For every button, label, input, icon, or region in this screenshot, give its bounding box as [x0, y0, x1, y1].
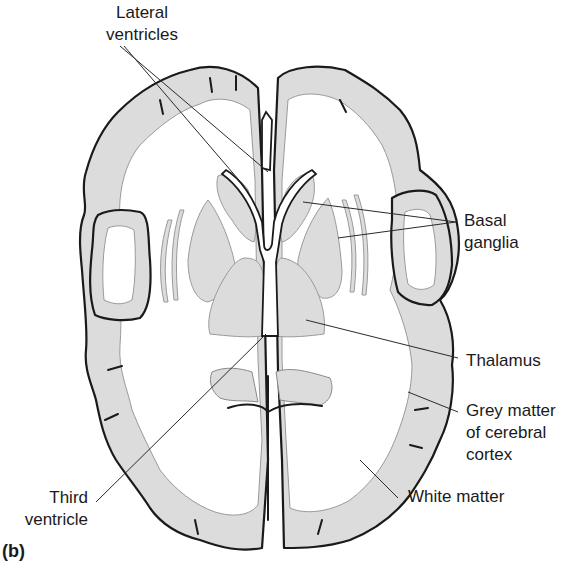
label-third-ventricle: Third ventricle [20, 487, 88, 531]
label-line: ganglia [464, 232, 519, 254]
label-basal-ganglia: Basal ganglia [464, 210, 519, 254]
brain-diagram: Lateral ventricles Basal ganglia Thalamu… [0, 0, 561, 568]
panel-label: (b) [2, 540, 25, 562]
label-line: cortex [466, 444, 556, 466]
longitudinal-fissure-anterior [262, 112, 272, 170]
brain-section-drawing [0, 0, 561, 568]
label-white-matter: White matter [408, 486, 504, 508]
label-line: Basal [464, 210, 519, 232]
label-line: Third [20, 487, 88, 509]
label-line: Grey matter [466, 400, 556, 422]
label-lateral-ventricles: Lateral ventricles [92, 2, 192, 46]
label-line: White matter [408, 486, 504, 508]
label-line: of cerebral [466, 422, 556, 444]
label-grey-matter: Grey matter of cerebral cortex [466, 400, 556, 466]
label-line: ventricle [20, 509, 88, 531]
right-insular-white [404, 209, 437, 289]
label-thalamus: Thalamus [466, 350, 541, 372]
label-line: ventricles [92, 24, 192, 46]
left-insular-white [103, 226, 136, 304]
label-line: Thalamus [466, 350, 541, 372]
label-line: Lateral [92, 2, 192, 24]
